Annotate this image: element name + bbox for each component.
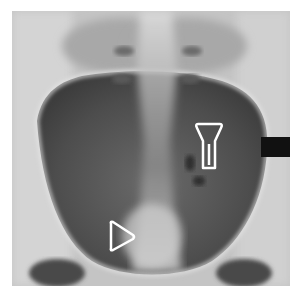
pelvis-radiograph: [12, 11, 290, 286]
black-block: [261, 137, 290, 157]
bladder-opacity: [122, 204, 182, 268]
xray-image: [12, 11, 290, 286]
